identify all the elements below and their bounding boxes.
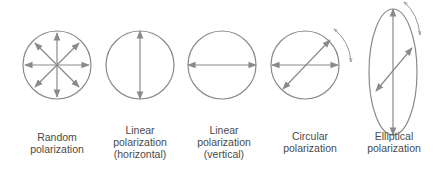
random-polarization-icon xyxy=(23,31,91,99)
label-line: polarization xyxy=(179,136,269,148)
label-linear-horizontal: Linear polarization (horizontal) xyxy=(95,124,185,160)
label-line: polarization xyxy=(12,143,102,155)
label-line: polarization xyxy=(349,142,439,154)
label-line: Random xyxy=(12,131,102,143)
label-circular-polarization: Circular polarization xyxy=(265,130,355,154)
label-line: polarization xyxy=(265,142,355,154)
circular-polarization-icon xyxy=(271,29,351,99)
label-random-polarization: Random polarization xyxy=(12,131,102,155)
label-line: Elliptical xyxy=(349,130,439,142)
elliptical-polarization-icon xyxy=(369,2,420,135)
label-line: (vertical) xyxy=(179,148,269,160)
label-linear-vertical: Linear polarization (vertical) xyxy=(179,124,269,160)
label-elliptical-polarization: Elliptical polarization xyxy=(349,130,439,154)
label-line: (horizontal) xyxy=(95,148,185,160)
label-line: polarization xyxy=(95,136,185,148)
label-line: Linear xyxy=(179,124,269,136)
linear-polarization-horizontal-icon xyxy=(106,31,174,99)
linear-polarization-vertical-icon xyxy=(188,31,256,99)
label-line: Linear xyxy=(95,124,185,136)
label-line: Circular xyxy=(265,130,355,142)
